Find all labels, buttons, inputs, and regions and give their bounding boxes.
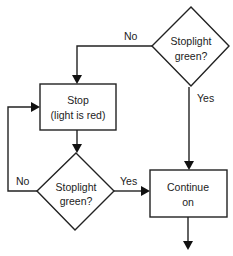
- continue-line1: Continue: [167, 181, 209, 193]
- edge-label-bottom-yes: Yes: [120, 175, 137, 187]
- decision-bottom-line1: Stoplight: [56, 181, 97, 193]
- stop-line1: Stop: [67, 94, 89, 106]
- process-node-stop: Stop (light is red): [40, 84, 116, 130]
- edge-label-top-no: No: [124, 30, 138, 42]
- edge-top-no: [72, 46, 152, 84]
- edge-label-top-yes: Yes: [197, 92, 214, 104]
- edge-stop-to-decision: [72, 130, 82, 153]
- process-node-continue: Continue on: [150, 170, 227, 217]
- stop-line2: (light is red): [51, 109, 106, 121]
- decision-bottom-line2: green?: [60, 195, 93, 207]
- decision-node-bottom: Stoplight green?: [37, 153, 114, 230]
- decision-top-line1: Stoplight: [171, 35, 212, 47]
- flowchart-canvas: No Yes No Yes Stoplight green? Stop (lig…: [0, 0, 233, 256]
- edge-bottom-yes: [114, 186, 150, 196]
- decision-node-top: Stoplight green?: [152, 7, 229, 86]
- edge-label-bottom-no: No: [16, 175, 30, 187]
- edge-top-yes: [184, 87, 194, 170]
- continue-line2: on: [182, 196, 194, 208]
- edge-continue-out: [183, 217, 193, 250]
- decision-top-line2: green?: [175, 50, 208, 62]
